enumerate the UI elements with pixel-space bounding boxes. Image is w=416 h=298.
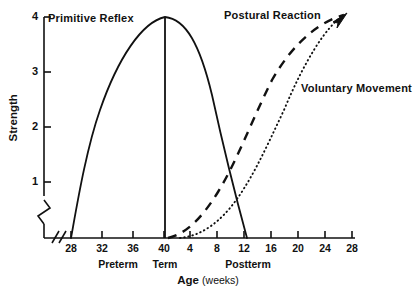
y-tick-label-2: 2 (20, 121, 38, 132)
y-tick-label-4: 4 (20, 11, 38, 22)
x-axis-title-text: Age (177, 274, 199, 286)
y-axis-title: Strength (8, 78, 20, 158)
series-primitive-reflex-curve (71, 17, 247, 238)
series-label-primitive-reflex: Primitive Reflex (48, 13, 134, 24)
y-axis-break-mark (38, 200, 50, 224)
phase-label-term: Term (142, 259, 188, 270)
x-tick-label-0: 28 (59, 243, 83, 254)
x-tick-marks (71, 231, 352, 238)
phase-label-preterm: Preterm (88, 259, 148, 270)
x-tick-label-1: 32 (90, 243, 114, 254)
y-tick-label-1: 1 (20, 176, 38, 187)
phase-label-postterm: Postterm (215, 259, 281, 270)
x-axis-title: Age (weeks) (0, 275, 416, 287)
series-voluntary-movement-curve (180, 15, 344, 238)
series-label-postural-reaction: Postural Reaction (224, 10, 321, 21)
x-axis-break-mark-1 (52, 231, 59, 243)
x-tick-label-4: 4 (178, 243, 202, 254)
y-tick-label-3: 3 (20, 66, 38, 77)
x-tick-label-6: 12 (232, 243, 256, 254)
series-label-voluntary-movement: Voluntary Movement (301, 83, 412, 94)
series-postural-reaction-curve (168, 15, 344, 238)
x-tick-label-3: 40 (152, 243, 176, 254)
x-tick-label-2: 36 (121, 243, 145, 254)
x-axis-title-unit: (weeks) (202, 274, 239, 286)
x-tick-label-10: 28 (340, 243, 364, 254)
x-tick-label-5: 8 (205, 243, 229, 254)
x-tick-label-8: 20 (286, 243, 310, 254)
x-tick-label-7: 16 (259, 243, 283, 254)
x-tick-label-9: 24 (313, 243, 337, 254)
chart-figure: Primitive Reflex Postural Reaction Volun… (0, 0, 416, 298)
